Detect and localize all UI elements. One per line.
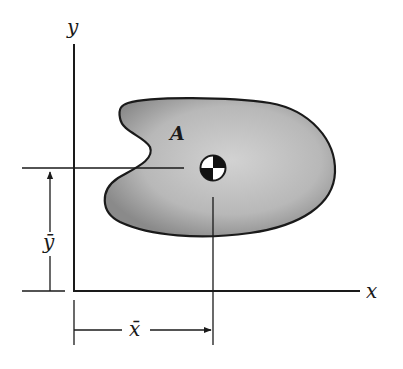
x-bar-label: x̄ <box>129 317 140 341</box>
centroid-diagram: y x A ȳ x̄ <box>0 0 403 369</box>
x-bar-dimension <box>74 300 211 345</box>
x-axis-label: x <box>366 279 377 303</box>
centroid-icon <box>201 156 226 181</box>
y-axis-label: y <box>66 15 79 39</box>
diagram-svg: y x A ȳ x̄ <box>0 0 403 369</box>
y-bar-label: ȳ <box>42 230 55 254</box>
area-label: A <box>168 122 185 144</box>
